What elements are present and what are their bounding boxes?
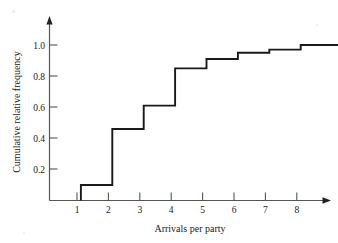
- step-chart-plot: 1.0 0.8 0.6 0.4 0.2 1 2 3 4 5 6 7 8: [0, 0, 338, 243]
- x-axis-ticks: [77, 193, 297, 201]
- x-tick-label-8: 8: [294, 205, 299, 215]
- x-tick-label-4: 4: [169, 205, 174, 215]
- x-axis-arrowhead: [323, 197, 332, 203]
- axis-lines: [46, 16, 331, 204]
- y-axis-arrowhead: [46, 16, 52, 25]
- x-axis-title: Arrivals per party: [154, 223, 225, 234]
- y-tick-label-0.8: 0.8: [33, 72, 45, 82]
- y-tick-label-0.4: 0.4: [33, 134, 45, 144]
- x-tick-label-3: 3: [137, 205, 142, 215]
- cdf-step-line: [81, 45, 338, 201]
- x-tick-label-1: 1: [75, 205, 80, 215]
- chart-figure: 1.0 0.8 0.6 0.4 0.2 1 2 3 4 5 6 7 8: [0, 0, 338, 243]
- y-tick-label-0.2: 0.2: [33, 165, 45, 175]
- y-axis-ticks: [50, 45, 58, 169]
- y-axis-tick-labels: 1.0 0.8 0.6 0.4 0.2: [33, 41, 45, 175]
- x-tick-label-7: 7: [263, 205, 268, 215]
- y-axis-title: Cumulative relative frequency: [11, 51, 22, 173]
- y-tick-label-0.6: 0.6: [33, 103, 45, 113]
- y-tick-label-1.0: 1.0: [33, 41, 45, 51]
- x-tick-label-5: 5: [200, 205, 205, 215]
- x-tick-label-2: 2: [106, 205, 111, 215]
- x-axis-tick-labels: 1 2 3 4 5 6 7 8: [75, 205, 300, 215]
- x-tick-label-6: 6: [232, 205, 237, 215]
